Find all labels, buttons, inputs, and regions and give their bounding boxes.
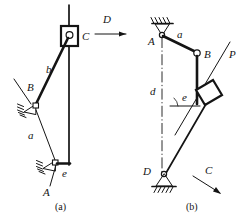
mechanism-figure: C D b B a xyxy=(0,0,243,220)
fixed-pivot-a xyxy=(37,160,59,186)
label-d-link: d xyxy=(150,85,156,97)
label-c-b: C xyxy=(205,164,213,176)
caption-b: (b) xyxy=(186,201,198,213)
slider-block-p xyxy=(196,80,222,105)
link-a-a xyxy=(36,110,55,160)
force-arrow-c xyxy=(193,176,221,194)
label-e-a: e xyxy=(62,167,67,179)
panel-b: A a B P e d xyxy=(142,18,236,214)
panel-a: C D b B a xyxy=(14,5,126,213)
label-d-a: D xyxy=(102,13,111,25)
caption-a: (a) xyxy=(55,201,66,213)
label-a-pivot-b: A xyxy=(147,35,155,47)
link-b xyxy=(36,38,68,104)
label-b-a: b xyxy=(46,63,52,75)
force-arrow-d xyxy=(95,31,126,36)
label-c-a: C xyxy=(82,30,90,42)
link-bottom-b xyxy=(166,104,206,173)
fixed-pivot-b xyxy=(18,103,39,118)
ground-hatch-a-b xyxy=(151,18,170,24)
label-d-pivot: D xyxy=(142,165,151,177)
label-b-pivot-a: B xyxy=(27,81,34,93)
label-a-link-b: a xyxy=(177,28,183,40)
label-b-pivot-b: B xyxy=(204,48,211,60)
label-p: P xyxy=(228,48,236,60)
ground-support-d xyxy=(152,171,176,192)
ground-hatch-a xyxy=(37,161,46,175)
label-e-b: e xyxy=(182,91,187,103)
label-a-link-a: a xyxy=(28,129,34,141)
ground-hatch-b xyxy=(18,104,27,118)
ground-hatch-d xyxy=(154,187,173,193)
label-a-pivot-a: A xyxy=(42,186,50,198)
